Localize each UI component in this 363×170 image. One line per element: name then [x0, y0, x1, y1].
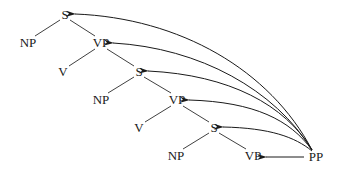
edge-S1-VP1	[70, 20, 95, 36]
edge-S3-VP3	[219, 133, 246, 149]
edge-S2-VP2	[144, 77, 171, 93]
node-NP2: NP	[93, 92, 110, 107]
arrow-PP-S2	[148, 71, 312, 150]
node-V1: V	[58, 64, 68, 79]
edge-VP2-S3	[183, 106, 209, 122]
node-S2: S	[135, 64, 142, 79]
node-NP1: NP	[20, 35, 37, 50]
edge-S1-NP1	[35, 20, 60, 36]
edge-VP2-V2	[145, 106, 171, 122]
node-PP: PP	[309, 149, 323, 164]
edge-VP1-S2	[107, 49, 134, 66]
node-S1: S	[61, 7, 68, 22]
node-VP3: VP	[245, 148, 262, 163]
node-VP1: VP	[93, 35, 110, 50]
syntax-tree-diagram: S NP VP V S NP VP V S NP VP PP	[0, 0, 363, 170]
edge-S2-NP2	[108, 77, 134, 93]
node-labels: S NP VP V S NP VP V S NP VP PP	[20, 7, 324, 164]
node-V2: V	[134, 120, 144, 135]
node-S3: S	[210, 120, 217, 135]
edge-VP1-V1	[69, 49, 95, 66]
node-NP3: NP	[168, 148, 185, 163]
attachment-arrows	[75, 14, 312, 157]
edge-S3-NP3	[183, 133, 209, 149]
node-VP2: VP	[169, 92, 186, 107]
arrow-PP-S1	[75, 14, 312, 150]
